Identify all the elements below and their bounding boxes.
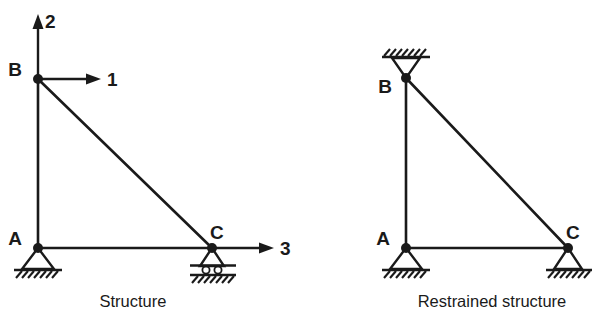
arrow-head-icon [86, 74, 101, 85]
ground-hatching-icon [384, 271, 426, 278]
node-label-B: B [8, 59, 22, 80]
caption-structure: Structure [100, 292, 167, 310]
diagram-restrained-structure: A B C Restrained structure [376, 49, 592, 310]
node-label-C: C [210, 222, 224, 243]
node-dot-B [33, 74, 43, 84]
dof-label-1: 1 [107, 69, 118, 90]
ceiling-hatching-icon [384, 49, 426, 56]
node-label-B: B [378, 76, 392, 97]
node-dot-C [207, 243, 217, 253]
ground-hatching-icon [192, 276, 234, 283]
dof-arrow-3: 3 [214, 238, 291, 259]
dof-label-2: 2 [45, 11, 56, 32]
node-label-A: A [376, 228, 390, 249]
truss-figure: 2 1 3 A B C Structure [0, 0, 614, 329]
node-dot-A [33, 243, 43, 253]
node-dot-A [401, 243, 411, 253]
member-BC [38, 79, 212, 248]
support-roller-C [190, 248, 236, 283]
node-dot-C [563, 243, 573, 253]
dof-arrow-1: 1 [41, 69, 118, 90]
dof-label-3: 3 [280, 238, 291, 259]
roller-wheel-icon [214, 266, 221, 273]
caption-restrained-structure: Restrained structure [418, 292, 567, 310]
arrow-head-icon [33, 14, 44, 29]
node-dot-B [401, 73, 411, 83]
node-label-C: C [566, 222, 580, 243]
ground-hatching-icon [548, 271, 590, 278]
ground-hatching-icon [16, 271, 58, 278]
diagram-structure: 2 1 3 A B C Structure [8, 11, 290, 310]
dof-arrow-2: 2 [33, 11, 56, 76]
roller-wheel-icon [202, 266, 209, 273]
member-BC [406, 78, 568, 248]
node-label-A: A [8, 228, 22, 249]
arrow-head-icon [259, 243, 274, 254]
